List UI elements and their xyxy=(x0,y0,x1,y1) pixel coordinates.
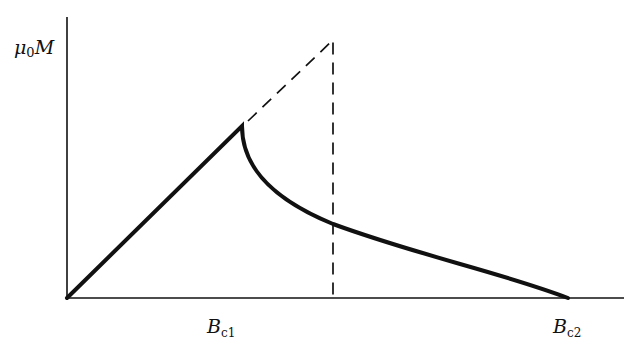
y-axis-label: μ0M xyxy=(14,36,54,60)
dashed-extrapolation-line xyxy=(248,40,333,298)
x-tick-bc2: Bc2 xyxy=(553,315,581,340)
chart-canvas xyxy=(0,0,637,347)
magnetization-curve xyxy=(67,126,568,298)
x-tick-bc1: Bc1 xyxy=(207,315,235,340)
